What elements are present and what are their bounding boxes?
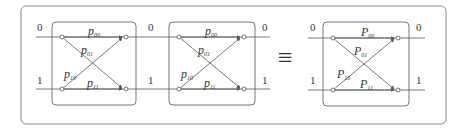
input-node-1 bbox=[60, 87, 64, 91]
edge-label-10: P10 bbox=[336, 67, 350, 81]
channel-1: 0 1 0 1 p00 p01 p10 p11 bbox=[36, 21, 155, 105]
channel-2: 0 1 p00 p01 p10 p11 bbox=[155, 21, 270, 105]
output-label-0: 0 bbox=[262, 21, 268, 33]
edge-label-00: P00 bbox=[360, 25, 374, 39]
output-label-1: 1 bbox=[148, 74, 154, 86]
edge-label-00: p00 bbox=[87, 24, 100, 38]
input-label-1: 1 bbox=[310, 74, 316, 86]
edge-label-11: p11 bbox=[86, 76, 99, 90]
input-node-1 bbox=[177, 87, 181, 91]
input-node-0 bbox=[331, 36, 335, 40]
edge-label-01: P01 bbox=[353, 44, 367, 58]
edge-label-01: p01 bbox=[80, 43, 93, 57]
edge-label-11: P11 bbox=[359, 77, 373, 91]
output-node-0 bbox=[396, 36, 400, 40]
output-node-0 bbox=[242, 35, 246, 39]
output-node-1 bbox=[242, 87, 246, 91]
output-label-1: 1 bbox=[416, 74, 422, 86]
edge-label-00: p00 bbox=[204, 24, 217, 38]
equivalence-symbol: ≡ bbox=[278, 43, 293, 72]
output-label-0: 0 bbox=[416, 21, 422, 33]
cascaded-binary-channel-diagram: 0 1 0 1 p00 p01 p10 p11 0 1 p00 p01 p10 … bbox=[0, 0, 468, 131]
input-label-0: 0 bbox=[310, 21, 316, 33]
output-node-0 bbox=[124, 35, 128, 39]
edge-label-10: p10 bbox=[180, 67, 193, 81]
edge-label-10: p10 bbox=[63, 67, 76, 81]
input-node-0 bbox=[177, 35, 181, 39]
edge-label-01: p01 bbox=[197, 43, 210, 57]
output-node-1 bbox=[396, 88, 400, 92]
output-node-1 bbox=[124, 87, 128, 91]
input-label-1: 1 bbox=[37, 74, 43, 86]
output-label-1: 1 bbox=[262, 74, 268, 86]
output-label-0: 0 bbox=[148, 21, 154, 33]
channel-equivalent: 0 1 0 1 P00 P01 P10 P11 bbox=[308, 21, 425, 106]
input-node-1 bbox=[331, 88, 335, 92]
input-label-0: 0 bbox=[37, 21, 43, 33]
edge-label-11: p11 bbox=[203, 76, 216, 90]
input-node-0 bbox=[60, 35, 64, 39]
